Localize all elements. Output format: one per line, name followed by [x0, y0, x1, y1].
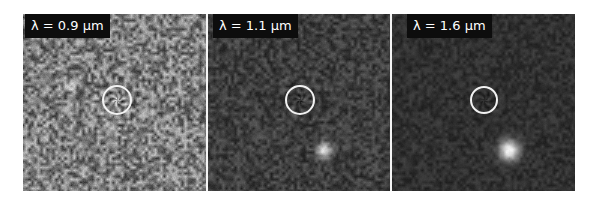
- noise-image: [208, 14, 390, 191]
- noise-image: [392, 14, 575, 191]
- image-panel-1.6um: λ = 1.6 µm: [392, 14, 575, 191]
- wavelength-comparison-figure: λ = 0.9 µm λ = 1.1 µm λ = 1.6 µm: [0, 0, 589, 204]
- wavelength-label: λ = 1.6 µm: [407, 14, 492, 38]
- image-panel-1.1um: λ = 1.1 µm: [208, 14, 390, 191]
- wavelength-label: λ = 1.1 µm: [213, 14, 298, 38]
- wavelength-label: λ = 0.9 µm: [25, 14, 110, 38]
- image-panel-0.9um: λ = 0.9 µm: [23, 14, 206, 191]
- noise-image: [23, 14, 206, 191]
